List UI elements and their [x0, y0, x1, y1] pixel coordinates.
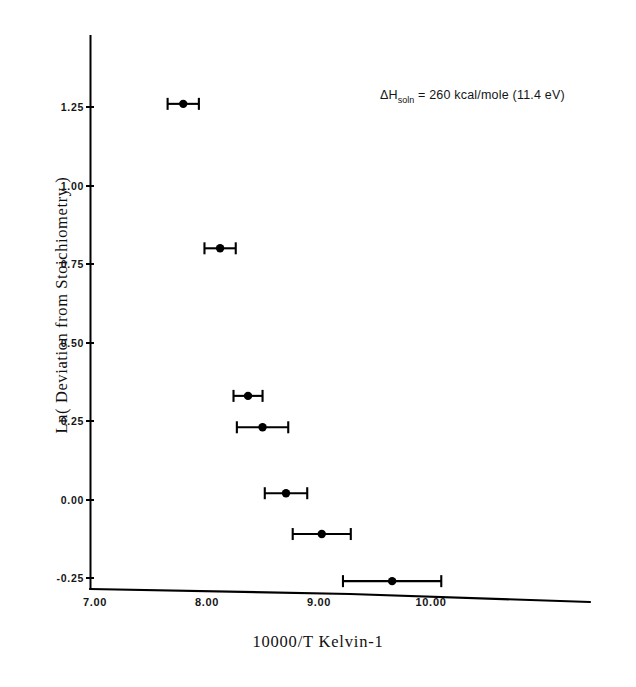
y-tick-label: 1.00	[32, 180, 84, 192]
chart-figure: Ln( Deviation from Stoichiometry ) 10000…	[0, 0, 636, 687]
annotation-text: = 260 kcal/mole (11.4 eV)	[414, 88, 565, 102]
y-tick-label: 0.50	[32, 337, 84, 349]
x-axis-title: 10000/T Kelvin-1	[0, 632, 636, 652]
annotation-subscript: soln	[398, 95, 415, 105]
data-point	[204, 242, 235, 254]
data-point-marker	[388, 577, 396, 585]
x-tick-label: 10.00	[396, 596, 466, 608]
data-point-marker	[179, 100, 187, 108]
y-tick-label: 0.75	[32, 258, 84, 270]
data-point-marker	[258, 423, 266, 431]
data-point-marker	[318, 530, 326, 538]
x-tick-label: 8.00	[172, 596, 242, 608]
data-point-marker	[216, 244, 224, 252]
data-series	[168, 98, 442, 587]
x-tick-label: 9.00	[284, 596, 354, 608]
y-tick-label: 0.25	[32, 415, 84, 427]
enthalpy-annotation: ΔHsoln = 260 kcal/mole (11.4 eV)	[380, 88, 565, 105]
data-point	[265, 487, 307, 499]
data-point	[343, 575, 441, 587]
y-tick-label: 1.25	[32, 101, 84, 113]
data-point	[234, 390, 263, 402]
data-point-marker	[282, 489, 290, 497]
data-point	[237, 421, 288, 433]
y-tick-label: 0.00	[32, 494, 84, 506]
annotation-symbol: ΔH	[380, 88, 398, 102]
y-axis-tick-labels: 1.25 1.00 0.75 0.50 0.25 0.00 -0.25	[28, 0, 84, 687]
data-point	[168, 98, 199, 110]
data-point-marker	[244, 392, 252, 400]
data-point	[293, 528, 351, 540]
y-tick-label: -0.25	[32, 572, 84, 584]
x-tick-label: 7.00	[60, 596, 130, 608]
